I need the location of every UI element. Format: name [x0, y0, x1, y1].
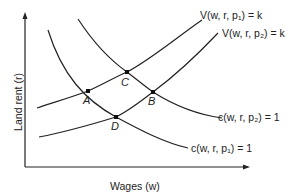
point-d-marker: [114, 115, 118, 119]
label-v-p1: V(w, r, p₁) = k: [200, 10, 262, 21]
point-c-label: C: [121, 77, 129, 88]
point-b-label: B: [148, 96, 155, 107]
y-axis-label: Land rent (r): [12, 72, 24, 132]
label-c-p1: c(w, r, p₁) = 1: [191, 143, 252, 154]
y-axis-arrow-icon: [23, 12, 28, 19]
x-axis-label: Wages (w): [110, 180, 160, 192]
point-b-marker: [151, 90, 155, 94]
point-d-label: D: [111, 121, 119, 132]
point-a-marker: [86, 89, 90, 93]
label-v-p2: V(w, r, p₂) = k: [222, 28, 285, 39]
point-a-label: A: [83, 95, 90, 106]
x-axis-arrow-icon: [243, 165, 250, 170]
label-c-p2: c(w, r, p₂) = 1: [218, 112, 280, 123]
point-c-marker: [125, 70, 129, 74]
